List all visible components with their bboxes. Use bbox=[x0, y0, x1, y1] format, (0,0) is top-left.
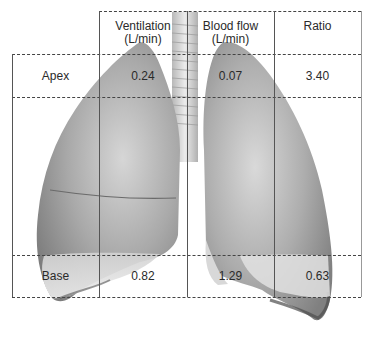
row-base-blood-flow: 1.29 bbox=[187, 256, 274, 297]
header-ratio-label: Ratio bbox=[303, 20, 331, 33]
row-apex-region: Apex bbox=[12, 55, 99, 97]
grid-col-3 bbox=[274, 11, 275, 297]
header-blood-flow-unit: (L/min) bbox=[212, 33, 249, 46]
row-apex-blood-flow: 0.07 bbox=[187, 55, 274, 97]
row-base-region: Base bbox=[12, 256, 99, 297]
header-ventilation: Ventilation (L/min) bbox=[99, 12, 187, 54]
row-base-ventilation: 0.82 bbox=[99, 256, 187, 297]
row-base-ratio: 0.63 bbox=[274, 256, 361, 297]
header-ratio: Ratio bbox=[274, 5, 361, 47]
grid-col-right bbox=[361, 11, 362, 297]
row-apex-ratio: 3.40 bbox=[274, 55, 361, 97]
header-ventilation-unit: (L/min) bbox=[124, 33, 161, 46]
grid-line-bottom bbox=[12, 297, 361, 298]
row-apex-ventilation: 0.24 bbox=[99, 55, 187, 97]
header-blood-flow: Blood flow (L/min) bbox=[187, 12, 274, 54]
